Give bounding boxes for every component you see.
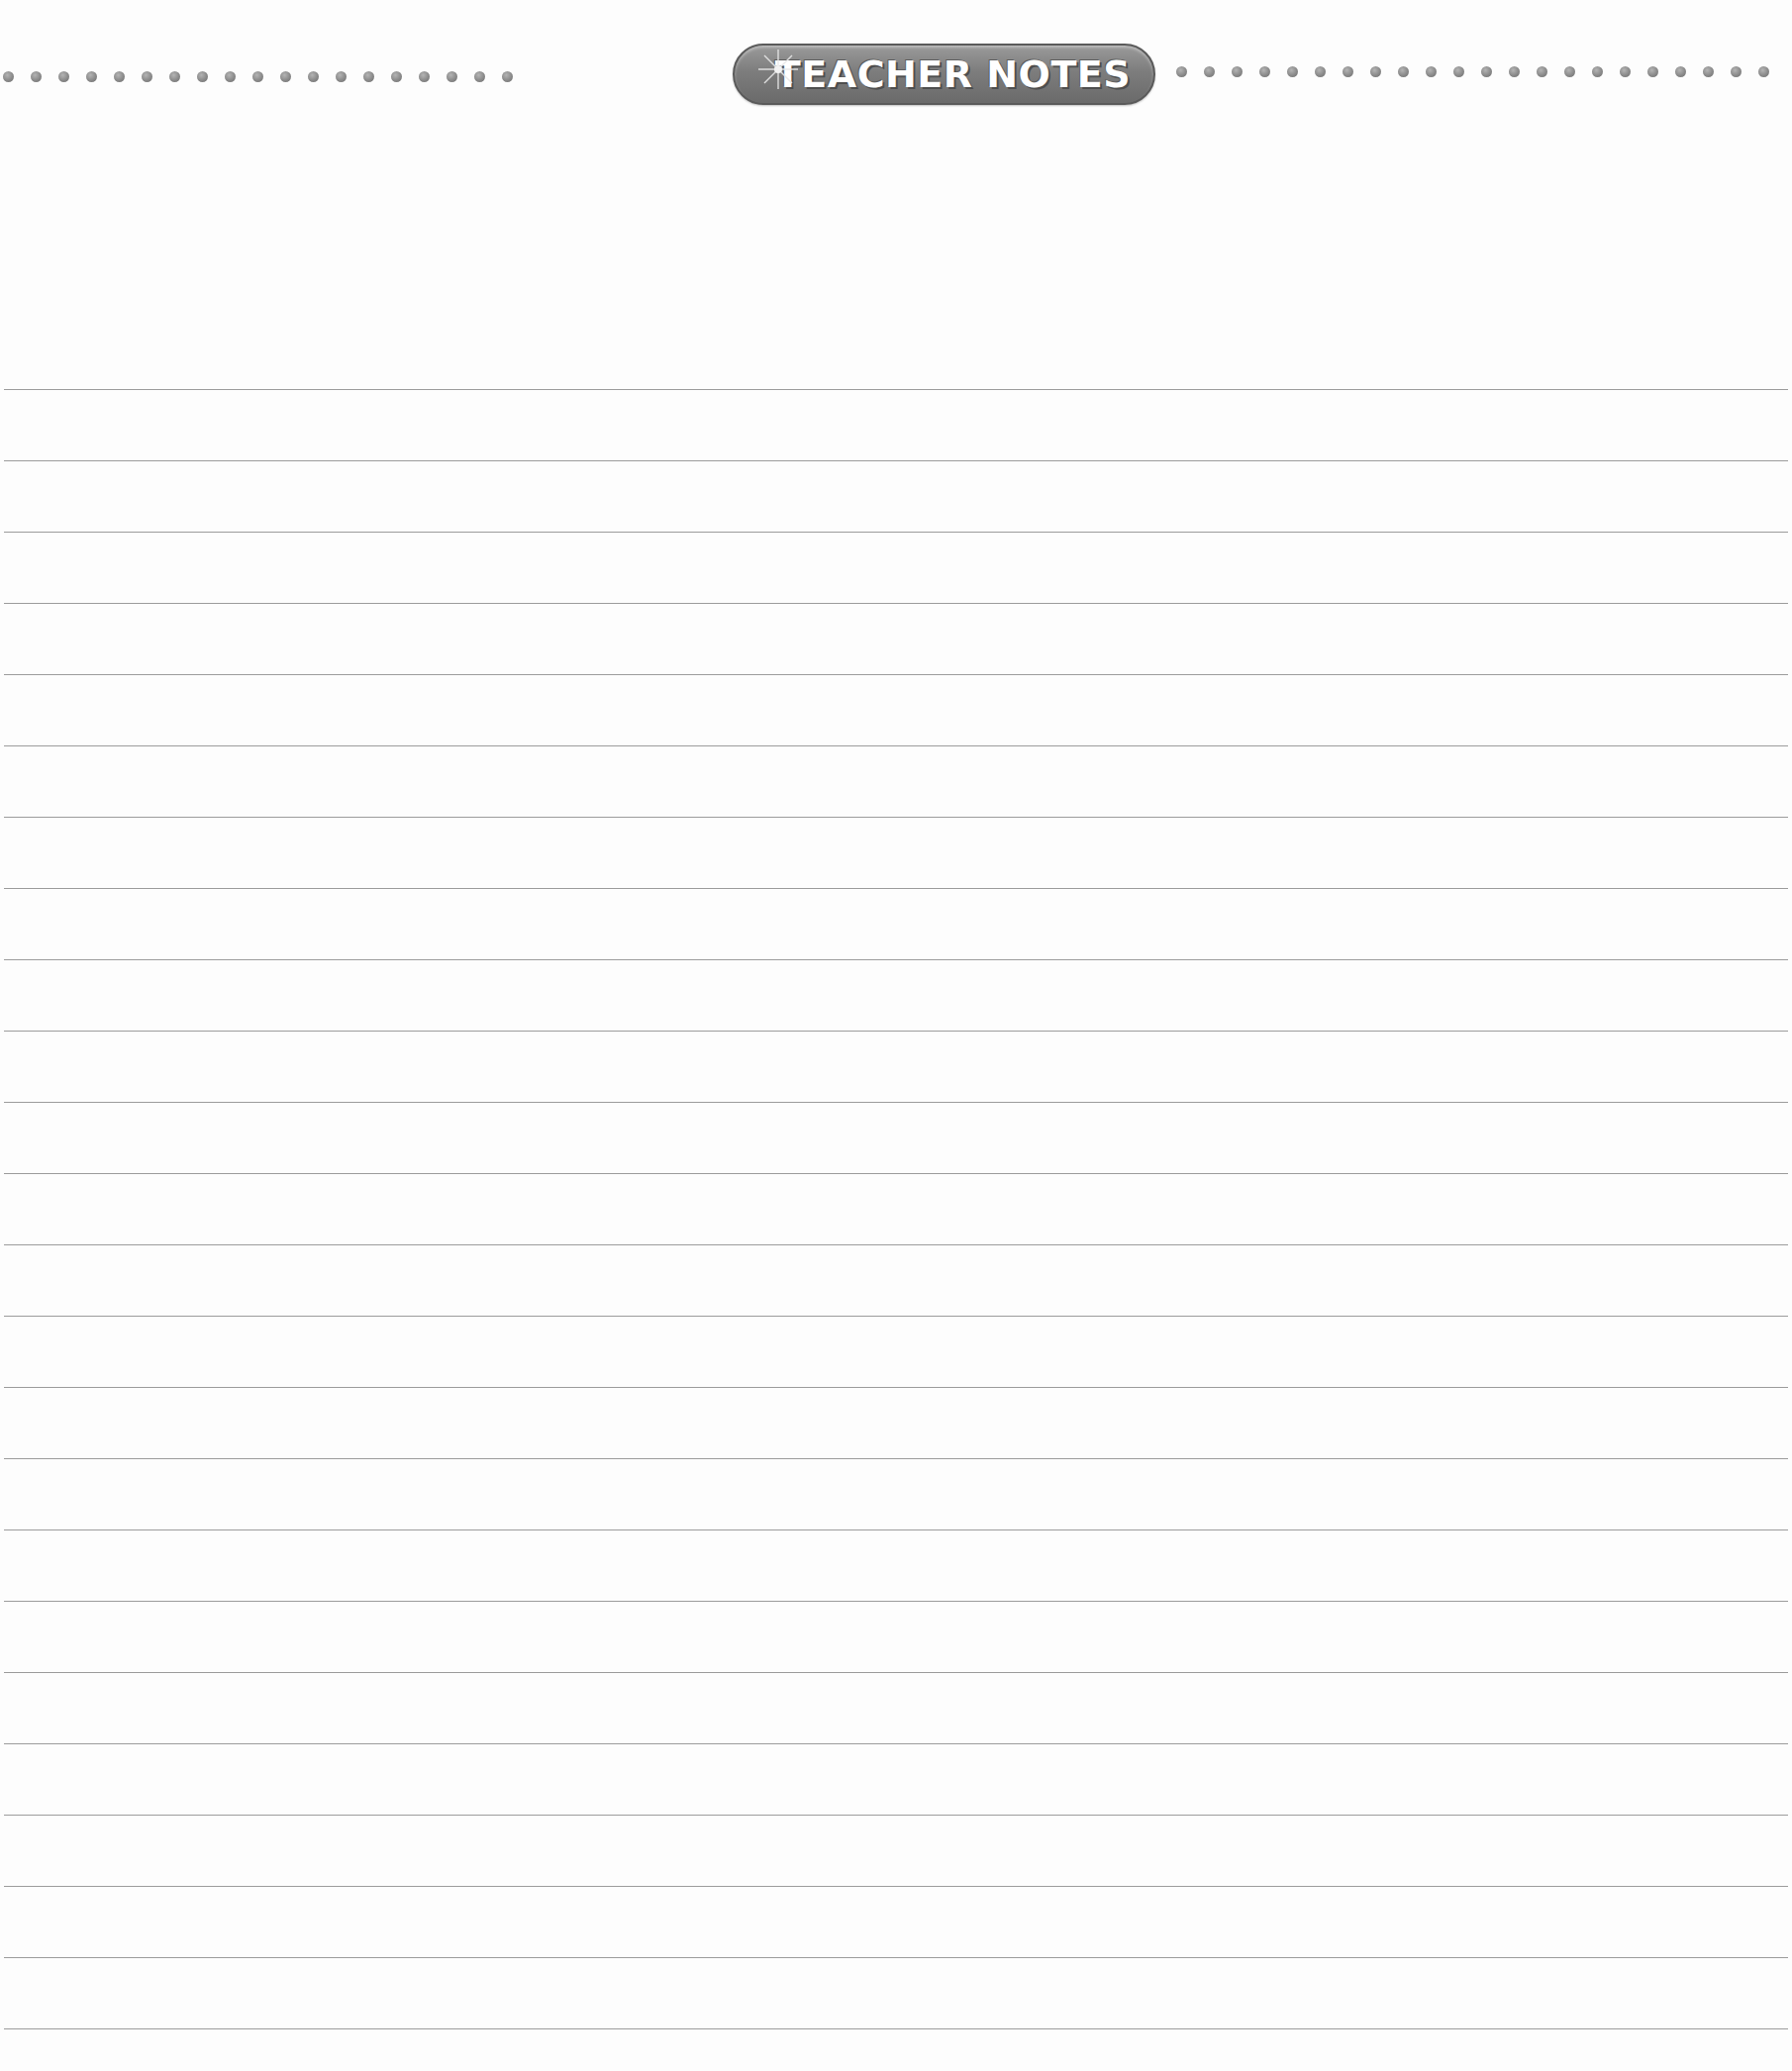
dot-leader-icon [3,71,14,82]
dot-leader-icon [447,71,457,82]
dot-leader-icon [502,71,513,82]
dot-leader-icon [1564,66,1575,77]
dot-leader-icon [1343,66,1353,77]
dot-leader-icon [1647,66,1658,77]
dot-leader-icon [363,71,374,82]
ruled-line [4,1815,1788,1816]
dot-leader-icon [1731,66,1742,77]
dot-leader-icon [1259,66,1270,77]
dot-leader-icon [1537,66,1547,77]
dot-leader-icon [1481,66,1492,77]
ruled-line [4,2028,1788,2029]
ruled-line [4,1316,1788,1317]
ruled-line [4,1672,1788,1673]
dot-leader-icon [197,71,208,82]
ruled-line [4,745,1788,746]
dot-leader-icon [1592,66,1603,77]
dot-leader-icon [1398,66,1409,77]
ruled-line [4,817,1788,818]
dot-leader-icon [225,71,236,82]
ruled-line [4,1102,1788,1103]
dot-leader-icon [308,71,319,82]
dot-leader-icon [169,71,180,82]
dot-leader-icon [336,71,347,82]
dot-leader-icon [1453,66,1464,77]
ruled-line [4,1458,1788,1459]
ruled-line [4,389,1788,390]
dot-leader-icon [142,71,152,82]
page-title: TEACHER NOTES [757,52,1131,96]
ruled-line [4,1387,1788,1388]
dot-leader-icon [1758,66,1769,77]
ruled-line [4,1031,1788,1032]
teacher-notes-banner: TEACHER NOTES [733,44,1155,105]
left-dot-leader [3,70,530,82]
dot-leader-icon [474,71,485,82]
dot-leader-icon [252,71,263,82]
dot-leader-icon [419,71,430,82]
ruled-line [4,1886,1788,1887]
dot-leader-icon [1675,66,1686,77]
ruled-line [4,888,1788,889]
ruled-line [4,1743,1788,1744]
dot-leader-icon [1426,66,1437,77]
dot-leader-icon [1509,66,1520,77]
dot-leader-icon [391,71,402,82]
dot-leader-icon [58,71,69,82]
ruled-line [4,460,1788,461]
dot-leader-icon [1703,66,1714,77]
dot-leader-icon [86,71,97,82]
ruled-line [4,1244,1788,1245]
dot-leader-icon [114,71,125,82]
dot-leader-icon [1287,66,1298,77]
dot-leader-icon [1370,66,1381,77]
dot-leader-icon [1176,66,1187,77]
sparkle-icon [754,48,802,91]
dot-leader-icon [31,71,42,82]
dot-leader-icon [1315,66,1326,77]
dot-leader-icon [1232,66,1243,77]
ruled-line [4,1173,1788,1174]
ruled-line [4,1601,1788,1602]
ruled-line [4,674,1788,675]
right-dot-leader [1176,65,1786,77]
dot-leader-icon [280,71,291,82]
ruled-lines [4,389,1788,2071]
ruled-line [4,603,1788,604]
dot-leader-icon [1204,66,1215,77]
ruled-line [4,959,1788,960]
ruled-line [4,1957,1788,1958]
dot-leader-icon [1620,66,1631,77]
ruled-line [4,1529,1788,1530]
ruled-line [4,532,1788,533]
